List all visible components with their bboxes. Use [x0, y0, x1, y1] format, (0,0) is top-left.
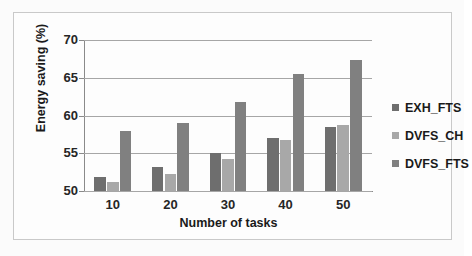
- x-axis-title: Number of tasks: [84, 216, 373, 230]
- bar-dvfs_ch-30[interactable]: [222, 159, 234, 191]
- x-tick-label-50: 50: [314, 197, 372, 212]
- y-tick-label-60: 60: [48, 109, 78, 122]
- chart-frame: Energy saving (%) 5055606570 1020304050 …: [13, 12, 452, 240]
- bar-dvfs_ch-10[interactable]: [107, 182, 119, 191]
- y-tick-label-55: 55: [48, 146, 78, 159]
- y-tick-label-70: 70: [48, 33, 78, 46]
- x-tick-label-40: 40: [257, 197, 315, 212]
- bar-group-20: [142, 40, 200, 191]
- legend-swatch-icon: [392, 160, 399, 167]
- legend-item-dvfs_ch[interactable]: DVFS_CH: [392, 129, 472, 142]
- bar-exh_fts-50[interactable]: [325, 127, 337, 191]
- legend-label: DVFS_FTS: [405, 157, 469, 171]
- bar-exh_fts-40[interactable]: [267, 138, 279, 191]
- x-tick-label-30: 30: [199, 197, 257, 212]
- bar-exh_fts-30[interactable]: [210, 153, 222, 192]
- legend-label: DVFS_CH: [405, 129, 463, 143]
- x-tick-label-20: 20: [142, 197, 200, 212]
- y-tick-label-65: 65: [48, 71, 78, 84]
- bar-group-40: [257, 40, 315, 191]
- bar-dvfs_ch-20[interactable]: [165, 174, 177, 191]
- legend-label: EXH_FTS: [405, 101, 461, 115]
- y-tick-mark-50: [79, 191, 84, 192]
- bar-group-50: [314, 40, 372, 191]
- bar-dvfs_fts-40[interactable]: [293, 74, 305, 191]
- bar-dvfs_fts-30[interactable]: [235, 102, 247, 191]
- bar-group-10: [84, 40, 142, 191]
- chart-legend: EXH_FTSDVFS_CHDVFS_FTS: [392, 101, 472, 185]
- bar-dvfs_ch-40[interactable]: [280, 140, 292, 191]
- bar-exh_fts-10[interactable]: [94, 177, 106, 191]
- legend-item-exh_fts[interactable]: EXH_FTS: [392, 101, 472, 114]
- legend-item-dvfs_fts[interactable]: DVFS_FTS: [392, 157, 472, 170]
- bar-dvfs_fts-20[interactable]: [177, 123, 189, 191]
- bar-dvfs_fts-50[interactable]: [350, 60, 362, 191]
- gridline-50: [84, 191, 372, 192]
- bar-dvfs_fts-10[interactable]: [120, 131, 132, 191]
- y-tick-label-50: 50: [48, 184, 78, 197]
- bar-dvfs_ch-50[interactable]: [337, 125, 349, 191]
- bar-group-30: [199, 40, 257, 191]
- plot-area: [84, 40, 372, 191]
- y-axis-tick-labels: 5055606570: [42, 40, 78, 192]
- legend-swatch-icon: [392, 104, 399, 111]
- legend-swatch-icon: [392, 132, 399, 139]
- bar-exh_fts-20[interactable]: [152, 167, 164, 191]
- x-tick-label-10: 10: [84, 197, 142, 212]
